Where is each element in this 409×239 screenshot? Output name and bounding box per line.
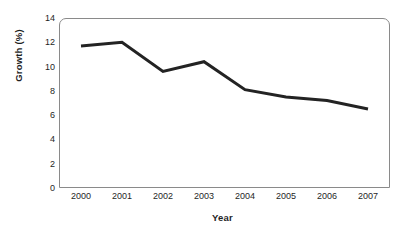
y-axis-tick-labels: 02468101214 [4,0,55,239]
plot-area [59,18,390,188]
y-tick-label: 0 [9,183,55,193]
y-tick-label: 12 [9,37,55,47]
series-line-growth [81,42,368,109]
data-line-svg [59,18,390,188]
x-tick-label: 2007 [358,191,378,201]
y-tick-label: 2 [9,159,55,169]
y-tick-label: 10 [9,62,55,72]
y-tick-label: 14 [9,13,55,23]
x-tick-label: 2001 [112,191,132,201]
x-tick-label: 2004 [235,191,255,201]
x-tick-label: 2002 [153,191,173,201]
x-tick-label: 2003 [194,191,214,201]
line-chart: Growth (%) 02468101214 20002001200220032… [0,0,409,239]
y-tick-label: 6 [9,110,55,120]
x-axis-tick-labels: 20002001200220032004200520062007 [59,191,390,207]
y-tick-label: 4 [9,134,55,144]
x-tick-label: 2005 [276,191,296,201]
x-tick-label: 2006 [317,191,337,201]
y-tick-label: 8 [9,86,55,96]
x-axis-title: Year [55,212,390,223]
x-tick-label: 2000 [71,191,91,201]
